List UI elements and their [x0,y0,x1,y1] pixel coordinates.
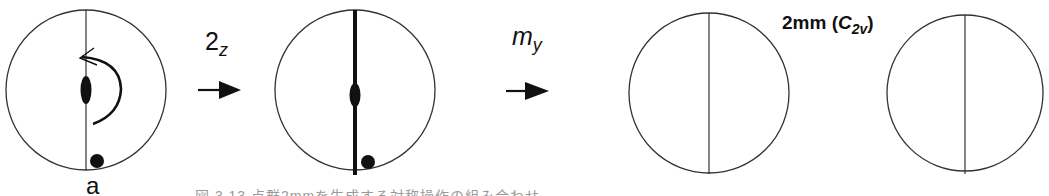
group-schoenflies-symbol: C [838,12,852,33]
point-group-label: 2mm (C2v) [782,12,874,37]
general-point-icon [361,155,375,169]
group-prefix: 2mm ( [782,12,838,33]
operation-arrow-my [506,82,549,100]
point-label-a: a [86,172,99,196]
operation-base: 2 [205,27,219,55]
operation-base: m [512,22,533,50]
group-subscript: 2v [852,21,868,37]
operation-arrow-2z [198,81,241,99]
stereogram-after-2z [275,10,435,175]
operation-subscript: z [219,40,228,60]
operation-label-2z: 2z [205,27,228,61]
operation-subscript: y [533,35,542,55]
twofold-axis-icon [81,76,92,104]
operation-label-my: my [512,22,542,56]
group-suffix: ) [867,12,873,33]
stereogram-result [887,15,1043,174]
general-point-icon [90,154,104,168]
figure-caption: 図 3.13 点群2mmを生成する対称操作の組み合わせ [195,185,540,196]
stereogram-initial [6,10,166,170]
symmetry-diagram: 2z my a 2mm (C2v) 図 3.13 点群2mmを生成する対称操作の… [0,0,1049,196]
twofold-axis-icon [350,83,361,107]
stereogram-after-my [629,13,789,174]
